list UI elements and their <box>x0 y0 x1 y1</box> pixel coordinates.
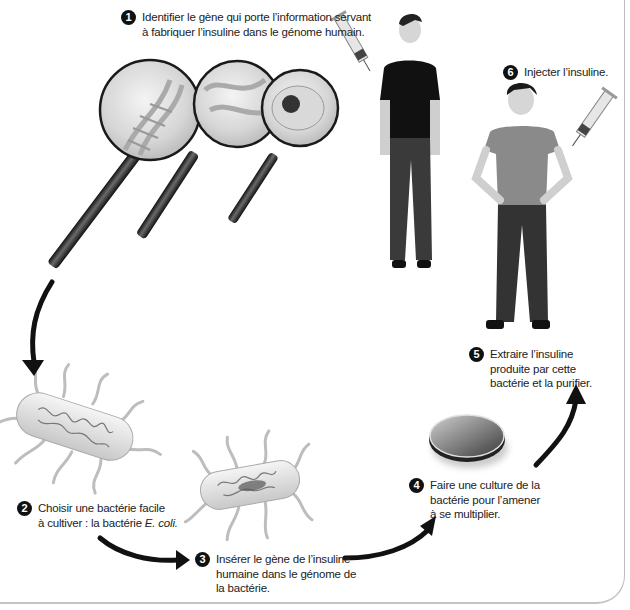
step-1: 1 Identifier le gène qui porte l’informa… <box>121 10 371 39</box>
bacterium-modified-icon <box>172 423 323 551</box>
bacterium-icon <box>0 344 179 512</box>
step-2-text: Choisir une bactérie facile à cultiver :… <box>38 501 178 530</box>
man-figure-icon <box>476 83 568 329</box>
step-6: 6 Injecter l’insuline. <box>503 65 608 80</box>
step-3: 3 Insérer le gène de l’insuline humaine … <box>195 552 356 596</box>
step-2: 2 Choisir une bactérie facile à cultiver… <box>17 501 178 530</box>
step-number-badge: 1 <box>121 10 136 25</box>
step-6-text: Injecter l’insuline. <box>524 65 608 80</box>
step-4: 4 Faire une culture de la bactérie pour … <box>409 478 540 522</box>
step-number-badge: 2 <box>17 501 32 516</box>
step-number-badge: 4 <box>409 478 424 493</box>
step-3-text: Insérer le gène de l’insuline humaine da… <box>216 552 356 596</box>
magnifying-glass-dna-icon <box>47 60 200 270</box>
step-number-badge: 6 <box>503 65 518 80</box>
arrow-step3-to-4-icon <box>345 516 436 558</box>
arrow-step2-to-3-icon <box>100 538 190 570</box>
step-5-text: Extraire l’insuline produite par cette b… <box>490 347 592 391</box>
step-number-badge: 5 <box>469 347 484 362</box>
arrow-step1-to-2-icon <box>22 282 52 376</box>
petri-dish-icon <box>429 415 508 468</box>
step-2-text-italic: E. coli. <box>145 517 178 529</box>
step-number-badge: 3 <box>195 552 210 567</box>
syringe-icon <box>565 87 618 151</box>
insulin-production-diagram: 1 Identifier le gène qui porte l’informa… <box>0 0 630 610</box>
step-4-text: Faire une culture de la bactérie pour l’… <box>430 478 540 522</box>
step-5: 5 Extraire l’insuline produite par cette… <box>469 347 592 391</box>
arrow-step4-to-5-icon <box>536 384 586 465</box>
step-1-text: Identifier le gène qui porte l’informati… <box>142 10 371 39</box>
woman-figure-icon <box>380 14 440 268</box>
